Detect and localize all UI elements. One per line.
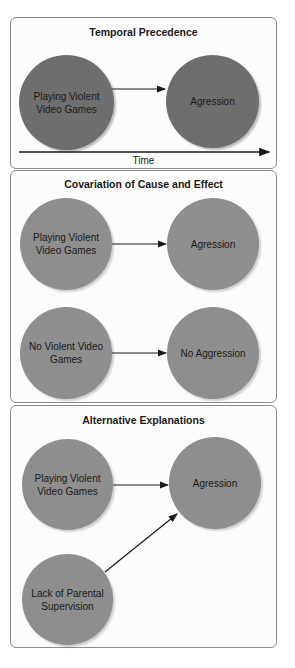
- node-label: Playing Violent Video Games: [28, 472, 107, 498]
- node-alternative-cause: Lack of Parental Supervision: [22, 554, 113, 645]
- node-effect-row1: Agression: [167, 198, 259, 290]
- node-label: No Aggression: [180, 347, 245, 360]
- panel-title: Alternative Explanations: [11, 414, 276, 426]
- node-label: No Violent Video Games: [26, 340, 106, 366]
- node-label: Playing Violent Video Games: [26, 231, 106, 257]
- panel-temporal-precedence: Temporal Precedence Playing Violent Vide…: [10, 17, 277, 169]
- node-cause-row1: Playing Violent Video Games: [20, 198, 112, 290]
- node-cause: Playing Violent Video Games: [22, 439, 113, 530]
- node-label: Lack of Parental Supervision: [28, 587, 107, 613]
- node-label: Agression: [190, 95, 234, 108]
- panel-title: Covariation of Cause and Effect: [11, 178, 276, 190]
- node-effect: Agression: [166, 55, 259, 148]
- time-axis-label: Time: [11, 155, 276, 166]
- arrow-alternative-to-effect: [105, 514, 177, 572]
- node-cause: Playing Violent Video Games: [19, 55, 114, 150]
- node-effect-row2: No Aggression: [167, 307, 259, 399]
- panel-covariation: Covariation of Cause and Effect Playing …: [10, 170, 277, 403]
- node-effect: Agression: [169, 437, 261, 529]
- node-cause-row2: No Violent Video Games: [20, 307, 112, 399]
- panel-alternative-explanations: Alternative Explanations Playing Violent…: [10, 405, 277, 648]
- panel-title: Temporal Precedence: [11, 26, 276, 38]
- node-label: Playing Violent Video Games: [25, 90, 108, 116]
- node-label: Agression: [193, 477, 237, 490]
- node-label: Agression: [191, 238, 235, 251]
